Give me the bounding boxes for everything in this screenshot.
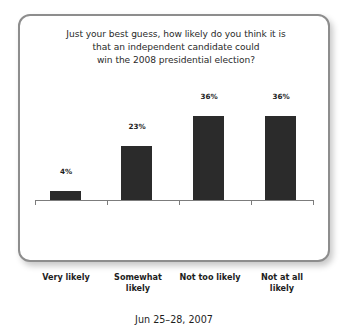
bar-not-at-all-likely <box>265 116 296 200</box>
bar-group-somewhat-likely: 23% <box>106 82 168 200</box>
x-axis-label-not-at-all-likely: Not at all likely <box>244 272 320 295</box>
bar-series: 4% 23% 36% 36% <box>35 82 314 200</box>
bar-group-not-too-likely: 36% <box>178 82 240 200</box>
x-axis-tick <box>107 201 108 205</box>
x-axis-tick <box>35 201 36 205</box>
chart-title-line-3: win the 2008 presidential election? <box>36 54 316 67</box>
x-axis-labels: Very likely Somewhat likely Not too like… <box>35 272 314 306</box>
x-axis-tick <box>179 201 180 205</box>
x-axis-label-line: likely <box>244 283 320 294</box>
chart-title: Just your best guess, how likely do you … <box>36 28 316 68</box>
x-axis-label-line: Not too likely <box>172 272 248 283</box>
chart-title-line-1: Just your best guess, how likely do you … <box>36 28 316 41</box>
x-axis-tick <box>313 201 314 205</box>
bar-group-not-at-all-likely: 36% <box>250 82 312 200</box>
chart-frame: Just your best guess, how likely do you … <box>18 14 330 262</box>
bar-value-label: 4% <box>35 167 97 176</box>
bar-value-label: 23% <box>106 122 168 131</box>
x-axis-label-very-likely: Very likely <box>28 272 104 283</box>
bar-value-label: 36% <box>178 92 240 101</box>
plot-area: 4% 23% 36% 36% <box>20 82 328 204</box>
x-axis-label-line: Very likely <box>28 272 104 283</box>
x-axis-label-not-too-likely: Not too likely <box>172 272 248 283</box>
x-axis-tick <box>251 201 252 205</box>
x-axis-label-line: likely <box>100 283 176 294</box>
x-axis-label-line: Somewhat <box>100 272 176 283</box>
x-axis-label-somewhat-likely: Somewhat likely <box>100 272 176 295</box>
x-axis-line <box>35 200 314 201</box>
bar-group-very-likely: 4% <box>35 82 97 200</box>
bar-not-too-likely <box>193 116 224 200</box>
bar-value-label: 36% <box>250 92 312 101</box>
bar-somewhat-likely <box>121 146 152 200</box>
bar-very-likely <box>50 191 81 200</box>
chart-footnote: Jun 25–28, 2007 <box>20 314 328 325</box>
chart-title-line-2: that an independent candidate could <box>36 41 316 54</box>
x-axis-label-line: Not at all <box>244 272 320 283</box>
